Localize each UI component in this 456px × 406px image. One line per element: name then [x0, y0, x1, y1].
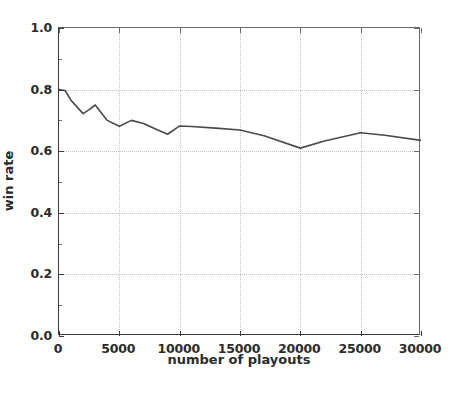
x-tick-label: 25000 — [338, 341, 381, 356]
win-rate-line — [59, 90, 421, 149]
y-axis-minor-tick — [59, 120, 62, 121]
x-axis-tick — [180, 331, 181, 336]
y-tick-label: 0.6 — [20, 143, 52, 158]
x-axis-tick — [240, 331, 241, 336]
y-axis-tick-right — [414, 274, 419, 275]
y-tick-label: 0.8 — [20, 81, 52, 96]
y-axis-tick — [59, 151, 64, 152]
y-tick-label: 0.4 — [20, 204, 52, 219]
data-line-layer — [59, 28, 421, 336]
y-axis-tick-right — [414, 28, 419, 29]
y-axis-tick-right — [414, 90, 419, 91]
x-axis-tick-top — [361, 28, 362, 33]
y-axis-minor-tick — [59, 182, 62, 183]
x-axis-tick-top — [119, 28, 120, 33]
x-tick-label: 10000 — [157, 341, 200, 356]
x-axis-tick — [421, 331, 422, 336]
y-tick-label: 1.0 — [20, 20, 52, 35]
y-axis-label: win rate — [1, 151, 16, 211]
x-axis-tick-top — [180, 28, 181, 33]
chart-figure: win rate number of playouts 050001000015… — [0, 0, 456, 406]
y-axis-tick-right — [414, 151, 419, 152]
y-axis-minor-tick — [59, 305, 62, 306]
plot-area — [58, 27, 420, 335]
y-axis-tick — [59, 90, 64, 91]
y-axis-minor-tick — [59, 244, 62, 245]
y-tick-label: 0.0 — [20, 328, 52, 343]
y-axis-minor-tick — [59, 59, 62, 60]
x-axis-tick-top — [300, 28, 301, 33]
x-tick-label: 30000 — [399, 341, 442, 356]
x-axis-tick — [300, 331, 301, 336]
x-tick-label: 0 — [54, 341, 63, 356]
x-tick-label: 20000 — [278, 341, 321, 356]
y-axis-tick — [59, 213, 64, 214]
y-tick-label: 0.2 — [20, 266, 52, 281]
x-tick-label: 15000 — [218, 341, 261, 356]
x-axis-tick-top — [240, 28, 241, 33]
x-axis-tick — [119, 331, 120, 336]
x-axis-tick — [361, 331, 362, 336]
x-tick-label: 5000 — [101, 341, 135, 356]
y-axis-tick — [59, 274, 64, 275]
y-axis-tick — [59, 28, 64, 29]
y-axis-tick-right — [414, 213, 419, 214]
y-axis-tick-right — [414, 336, 419, 337]
x-axis-tick-top — [421, 28, 422, 33]
y-axis-tick — [59, 336, 64, 337]
